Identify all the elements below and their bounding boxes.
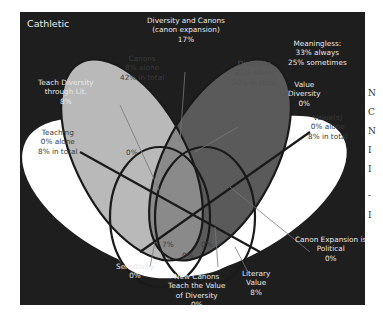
label-teach-diversity: Teach Diversity through Lit. 8% xyxy=(38,78,94,106)
label-canon-expansion-political: Canon Expansion is Political 0% xyxy=(295,235,365,263)
label-new-canons: New Canons Teach the Value of Diversity … xyxy=(168,272,225,305)
label-value-diversity: Value Diversity 0% xyxy=(288,80,320,108)
label-teaching: Teaching 0% alone 8% in total xyxy=(38,128,78,156)
label-meaningless: Meaningless: 33% always 25% sometimes xyxy=(288,39,347,67)
margin-letter: I xyxy=(368,210,372,220)
diagram-title: Cathletic xyxy=(27,18,69,29)
venn-diagram-panel: Cathletic Diversity and Canons (canon ex… xyxy=(20,12,365,305)
label-canons: Canons 8% alone 42% in total xyxy=(120,54,164,82)
label-sensitivity: Sensitivity 0% xyxy=(116,262,154,281)
margin-letter: N xyxy=(368,126,376,136)
label-teaching-canons: 0% xyxy=(126,148,138,157)
margin-letter: - xyxy=(368,190,371,200)
margin-letter: N xyxy=(368,88,376,98)
label-diversity: Diversity 25% alone 50% in total xyxy=(232,59,276,87)
label-center-right: 0% xyxy=(201,240,213,249)
margin-letter: C xyxy=(368,107,375,117)
label-center-left: 7% xyxy=(162,240,174,249)
margin-letter: I xyxy=(368,145,372,155)
label-values: Value(s) 0% alone 8% in total xyxy=(308,113,348,141)
margin-letter: I xyxy=(368,164,372,174)
label-literary-value: Literary Value 8% xyxy=(242,269,270,297)
label-center-bottom: 0% xyxy=(182,251,194,260)
label-diversity-canons: Diversity and Canons (canon expansion) 1… xyxy=(147,16,225,44)
